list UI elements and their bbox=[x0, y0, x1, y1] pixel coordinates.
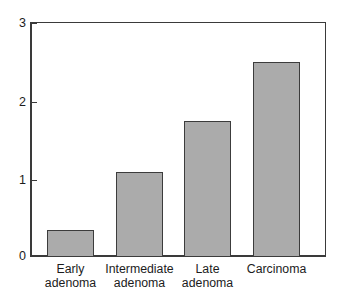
bar-intermediate-adenoma bbox=[116, 172, 163, 257]
bar-late-adenoma bbox=[184, 121, 231, 257]
bar-early-adenoma bbox=[47, 230, 94, 257]
bars-layer bbox=[0, 0, 342, 300]
x-axis-label-line2: adenoma bbox=[148, 276, 268, 290]
x-axis-label-line1: Carcinoma bbox=[247, 262, 306, 276]
bar-chart: 3 2 1 0 Early adenoma Intermediate adeno… bbox=[0, 0, 342, 300]
x-axis-label-carcinoma: Carcinoma bbox=[217, 262, 337, 276]
bar-carcinoma bbox=[253, 62, 300, 257]
